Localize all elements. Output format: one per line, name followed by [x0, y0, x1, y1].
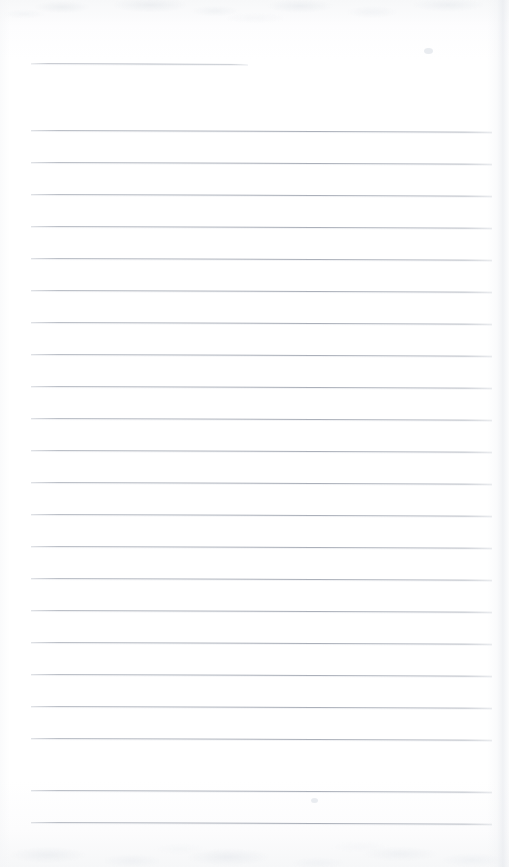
paper-background — [0, 0, 509, 867]
scanned-page — [0, 0, 509, 867]
